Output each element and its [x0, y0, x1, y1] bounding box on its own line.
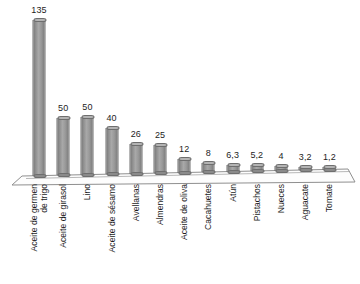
bar-value-label: 50 [82, 103, 92, 112]
bar-body [323, 167, 336, 170]
bar-value-label: 40 [106, 114, 116, 123]
bar-bottom-ellipse [155, 171, 168, 175]
plot-area: 13550504026251286,35,243,21,2 [0, 0, 360, 180]
category-label: Aceite de germende trigo [27, 184, 51, 284]
bar-body [57, 118, 70, 176]
bar-value-label: 5,2 [250, 151, 263, 160]
bar-body [226, 165, 239, 172]
bar-chart: 13550504026251286,35,243,21,2 Aceite de … [0, 0, 360, 284]
bar-bottom-ellipse [300, 168, 313, 172]
bar-bottom-ellipse [324, 168, 337, 172]
bar-bottom-ellipse [106, 172, 119, 176]
bar[interactable] [202, 163, 215, 172]
category-label: Lino [75, 184, 99, 284]
bar-value-label: 1,2 [323, 153, 336, 162]
bar-group: 26 [124, 130, 148, 174]
bar[interactable] [33, 20, 46, 176]
bar-value-label: 3,2 [299, 153, 312, 162]
bar-value-label: 135 [31, 6, 46, 15]
category-label-text: Nueces [276, 184, 286, 213]
bar-group: 25 [148, 131, 172, 174]
category-label: Avellanas [124, 184, 148, 284]
bar[interactable] [299, 167, 312, 171]
category-label-text: Aceite de girasol [58, 184, 68, 248]
bar-group: 5,2 [245, 151, 269, 171]
bar[interactable] [154, 145, 167, 174]
bar-top-ellipse [251, 163, 264, 167]
bar-value-label: 25 [155, 131, 165, 140]
bar-group: 3,2 [293, 153, 317, 171]
bar-bottom-ellipse [203, 170, 216, 174]
category-label-line2: de trigo [39, 184, 49, 251]
bar-top-ellipse [227, 163, 240, 167]
bar-body [275, 166, 288, 171]
category-axis-labels: Aceite de germende trigoAceite de giraso… [0, 184, 360, 284]
category-label-text: Almendras [155, 184, 165, 225]
bar-group: 4 [269, 152, 293, 171]
category-label-text: Atún [228, 184, 238, 202]
bar-body [81, 117, 94, 175]
category-label: Almendras [148, 184, 172, 284]
bar[interactable] [178, 159, 191, 173]
bar-value-label: 50 [58, 104, 68, 113]
category-label: Aceite de oliva [172, 184, 196, 284]
bar-value-label: 6,3 [226, 151, 239, 160]
bar-bottom-ellipse [58, 173, 71, 177]
bar-top-ellipse [179, 157, 192, 161]
bar-group: 8 [196, 149, 220, 172]
category-label: Pistachos [245, 184, 269, 284]
bar-value-label: 4 [278, 152, 283, 161]
bar-top-ellipse [58, 116, 71, 120]
category-label: Tomate [317, 184, 341, 284]
bar-bottom-ellipse [34, 174, 47, 178]
category-label: Aceite de sésamo [100, 184, 124, 284]
category-label-text: Tomate [324, 184, 334, 212]
bar-body [33, 20, 46, 176]
bar-top-ellipse [106, 126, 119, 130]
bar-group: 50 [51, 104, 75, 176]
bar[interactable] [226, 165, 239, 172]
bar-group: 6,3 [221, 151, 245, 172]
bar-top-ellipse [34, 18, 47, 22]
bar[interactable] [57, 118, 70, 176]
bar-bottom-ellipse [82, 173, 95, 177]
bar-body [250, 165, 263, 171]
bar-body [129, 144, 142, 174]
category-label-text: Aceite de sésamo [107, 184, 117, 252]
bar-group: 135 [27, 6, 51, 176]
category-label-text: Cacahuetes [203, 184, 213, 230]
category-label-text: Aceite de oliva [179, 184, 189, 240]
bar-body [299, 167, 312, 171]
category-label-text: Avellanas [131, 184, 141, 221]
bar-top-ellipse [130, 142, 143, 146]
bar-group: 40 [100, 114, 124, 174]
category-label: Cacahuetes [196, 184, 220, 284]
bar[interactable] [250, 165, 263, 171]
category-label-text: Aguacate [300, 184, 310, 220]
bar-body [178, 159, 191, 173]
category-label-text: Pistachos [252, 184, 262, 221]
bar-bottom-ellipse [227, 170, 240, 174]
bar-top-ellipse [155, 143, 168, 147]
bar-bottom-ellipse [251, 169, 264, 173]
bar-body [154, 145, 167, 174]
bar[interactable] [105, 128, 118, 174]
bar[interactable] [275, 166, 288, 171]
category-label: Nueces [269, 184, 293, 284]
bar-bottom-ellipse [179, 171, 192, 175]
bar-group: 1,2 [317, 153, 341, 170]
bar[interactable] [323, 167, 336, 170]
bar[interactable] [129, 144, 142, 174]
bar-value-label: 26 [131, 130, 141, 139]
bar-group: 12 [172, 145, 196, 173]
bar-bottom-ellipse [130, 172, 143, 176]
bar-body [105, 128, 118, 174]
bar[interactable] [81, 117, 94, 175]
bar-bottom-ellipse [276, 169, 289, 173]
bar-value-label: 8 [206, 149, 211, 158]
bar-value-label: 12 [179, 145, 189, 154]
category-label-text: Lino [82, 184, 92, 200]
category-label: Aceite de girasol [51, 184, 75, 284]
bar-group: 50 [75, 103, 99, 175]
category-label: Aguacate [293, 184, 317, 284]
